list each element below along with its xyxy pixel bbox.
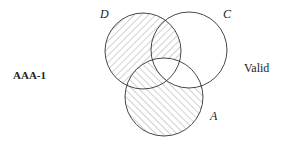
venn-diagram	[0, 0, 281, 146]
